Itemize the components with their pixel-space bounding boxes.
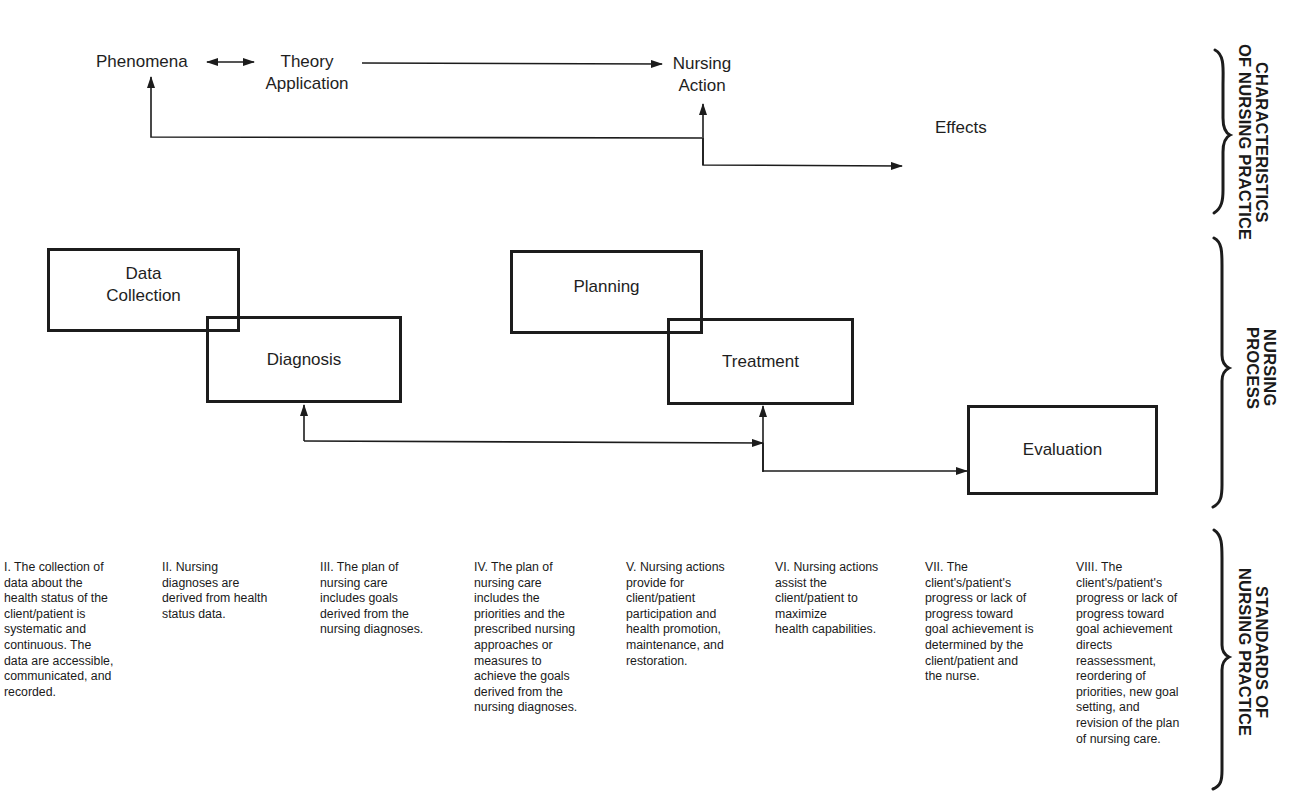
standard-1: I. The collection of data about the heal…	[4, 560, 113, 700]
data-collection-line1: Data	[126, 263, 162, 285]
theory-label-line2: Application	[256, 73, 358, 95]
planning-label: Planning	[573, 276, 639, 298]
standard-3: III. The plan of nursing care includes g…	[320, 560, 423, 638]
brace-characteristics	[1214, 50, 1230, 213]
treatment-label: Treatment	[722, 351, 799, 373]
standard-5: V. Nursing actions provide for client/pa…	[626, 560, 725, 669]
diagnosis-to-treatment-arrow	[304, 441, 763, 443]
feedback-to-phenomena-arrow	[151, 77, 702, 138]
brace-nursing-process	[1213, 238, 1229, 507]
standard-2: II. Nursing diagnoses are derived from h…	[162, 560, 267, 622]
standard-8: VIII. The client's/patient's progress or…	[1076, 560, 1179, 747]
theory-application-label: Theory Application	[256, 51, 358, 95]
diagnosis-box: Diagnosis	[206, 316, 402, 403]
brace-standards	[1213, 530, 1229, 789]
phenomena-label: Phenomena	[96, 51, 188, 73]
side-label-nursing-process: NURSING PROCESS	[1244, 318, 1278, 418]
standard-4: IV. The plan of nursing care includes th…	[474, 560, 577, 716]
theory-to-action-arrow	[362, 63, 662, 64]
nursing-action-line1: Nursing	[665, 53, 739, 75]
to-effects-arrow	[703, 138, 902, 166]
side-label-standards: STANDARDS OF NURSING PRACTICE	[1236, 552, 1270, 752]
to-evaluation-arrow	[763, 443, 967, 471]
treatment-box: Treatment	[667, 318, 854, 405]
theory-label-line1: Theory	[256, 51, 358, 73]
evaluation-box: Evaluation	[967, 405, 1158, 495]
side-label-characteristics: CHARACTERISTICS OF NURSING PRACTICE	[1236, 36, 1270, 248]
effects-label: Effects	[935, 117, 987, 139]
nursing-action-line2: Action	[665, 75, 739, 97]
nursing-action-label: Nursing Action	[665, 53, 739, 97]
diagnosis-label: Diagnosis	[267, 349, 342, 371]
evaluation-label: Evaluation	[1023, 439, 1102, 461]
data-collection-line2: Collection	[106, 285, 181, 307]
standard-7: VII. The client's/patient's progress or …	[925, 560, 1034, 685]
standard-6: VI. Nursing actions assist the client/pa…	[775, 560, 878, 638]
